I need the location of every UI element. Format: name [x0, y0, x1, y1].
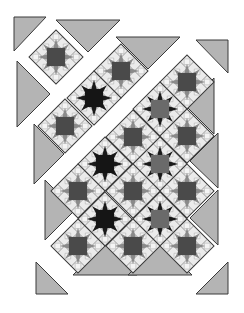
quilt-assembly-svg	[0, 0, 244, 313]
setting-triangle	[196, 40, 228, 73]
setting-triangle	[196, 262, 228, 294]
quilt-diagram	[0, 0, 244, 313]
setting-triangle	[36, 262, 68, 294]
